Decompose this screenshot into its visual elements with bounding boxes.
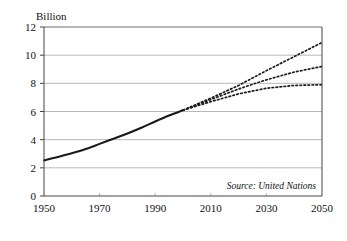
y-tick-label: 8 <box>31 77 37 89</box>
chart-canvas: Billion 024681012 1950197019902010203020… <box>0 0 347 241</box>
y-axis-unit-label: Billion <box>36 10 67 22</box>
y-tick-label: 2 <box>31 162 37 174</box>
y-tick-label: 6 <box>31 106 37 118</box>
population-projection-chart: Billion 024681012 1950197019902010203020… <box>0 0 347 241</box>
y-tick-label: 12 <box>25 21 36 33</box>
y-tick-label: 4 <box>31 134 37 146</box>
x-tick-label: 1990 <box>144 202 167 214</box>
y-tick-label: 0 <box>31 190 37 202</box>
x-tick-label: 1950 <box>33 202 56 214</box>
source-note: Source: United Nations <box>227 181 317 191</box>
x-tick-label: 2010 <box>200 202 223 214</box>
x-tick-label: 2050 <box>311 202 334 214</box>
x-tick-label: 1970 <box>89 202 112 214</box>
y-tick-label: 10 <box>25 49 37 61</box>
x-tick-label: 2030 <box>255 202 278 214</box>
